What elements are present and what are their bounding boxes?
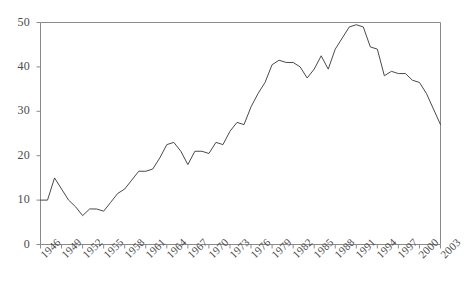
data-line-series (41, 25, 441, 216)
chart-tick-marks (37, 23, 441, 249)
y-tick-label: 10 (4, 192, 30, 207)
y-tick-label: 50 (4, 15, 30, 30)
line-chart: 01020304050 1946194919521955195819611964… (0, 0, 465, 295)
y-tick-label: 40 (4, 59, 30, 74)
y-tick-label: 0 (4, 237, 30, 252)
y-tick-label: 20 (4, 148, 30, 163)
y-tick-label: 30 (4, 103, 30, 118)
chart-axes (41, 23, 441, 245)
